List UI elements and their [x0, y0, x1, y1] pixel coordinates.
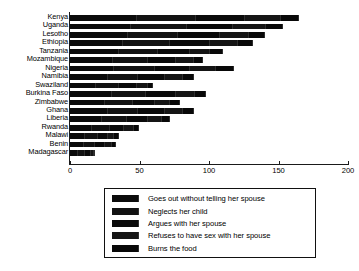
chart-figure: 050100150200 KenyaUgandaLesothoEthiopiaT… [0, 0, 359, 271]
bar-segment [146, 91, 175, 97]
bar-segment [165, 108, 183, 114]
bar-segment [155, 66, 190, 72]
bar-segment [210, 40, 238, 46]
bar-segment [128, 32, 178, 38]
bar-segment [124, 125, 134, 131]
bar-segment [70, 15, 137, 21]
bar-segment [183, 108, 194, 114]
bar-segment [70, 32, 128, 38]
bar-segment [108, 74, 139, 80]
stacked-bar [70, 116, 170, 122]
bar-segment [138, 108, 164, 114]
bar-segment [155, 100, 170, 106]
bar-segment [165, 74, 183, 80]
legend-swatch-4 [112, 232, 139, 239]
bar-segment [70, 74, 108, 80]
bar-segment [194, 57, 204, 63]
bar-segment [70, 49, 119, 55]
bar-segment [108, 133, 115, 139]
bar-segment [123, 40, 170, 46]
bar-segment [102, 116, 127, 122]
bar-segment [162, 116, 170, 122]
bar-segment [94, 150, 95, 156]
stacked-bar [70, 108, 194, 114]
stacked-bar [70, 49, 223, 55]
bar-segment [70, 83, 96, 89]
bar-segment [112, 142, 116, 148]
x-axis-tick-label: 200 [342, 166, 355, 175]
legend-label: Neglects her child [148, 207, 207, 216]
bar-segment [70, 66, 114, 72]
stacked-bar [70, 40, 253, 46]
bar-segment [119, 83, 137, 89]
bar-segment [105, 142, 112, 148]
bar-segment [113, 57, 148, 63]
legend-item: Neglects her child [105, 205, 315, 217]
legend-label: Argues with her spouse [148, 219, 226, 228]
bar-segment [112, 91, 147, 97]
bar-segment [105, 100, 133, 106]
bar-segment [95, 142, 105, 148]
bar-segment [131, 24, 187, 30]
bar-segment [133, 100, 155, 106]
legend-item: Refuses to have sex with her spouse [105, 230, 315, 242]
legend-item: Goes out without telling her spouse [105, 193, 315, 205]
x-axis-tick-label: 50 [135, 166, 143, 175]
bar-segment [148, 116, 162, 122]
bar-segment [170, 40, 210, 46]
bar-segment [178, 32, 220, 38]
x-axis-tick [140, 161, 141, 165]
bar-segment [84, 142, 95, 148]
bar-segment [148, 83, 154, 89]
stacked-bar [70, 100, 180, 106]
stacked-bar [70, 91, 206, 97]
bar-segment [210, 49, 223, 55]
stacked-bar [70, 74, 194, 80]
legend-item: Burns the food [105, 242, 315, 254]
bar-segment [119, 49, 158, 55]
x-axis-tick [70, 161, 71, 165]
bar-segment [70, 108, 108, 114]
bar-segment [220, 32, 249, 38]
bar-segment [96, 83, 118, 89]
bar-segment [134, 125, 140, 131]
bar-segment [183, 74, 194, 80]
x-axis-tick-label: 100 [203, 166, 216, 175]
stacked-bar [70, 32, 265, 38]
x-axis-tick [209, 161, 210, 165]
legend-label: Goes out without telling her spouse [148, 194, 265, 203]
bar-segment [70, 125, 92, 131]
bar-segment [85, 133, 98, 139]
bar-segment [190, 66, 216, 72]
bar-segment [281, 15, 299, 21]
legend-swatch-3 [112, 220, 139, 227]
category-label: Madagascar [0, 148, 68, 156]
bar-segment [190, 49, 211, 55]
stacked-bar [70, 125, 140, 131]
stacked-bar [70, 15, 299, 21]
bar-segment [249, 32, 264, 38]
stacked-bar [70, 133, 119, 139]
bar-segment [158, 49, 190, 55]
legend-label: Refuses to have sex with her spouse [148, 231, 270, 240]
bar-segment [195, 91, 206, 97]
stacked-bar [70, 24, 283, 30]
stacked-bar [70, 83, 153, 89]
bar-segment [70, 142, 84, 148]
bar-segment [176, 91, 195, 97]
x-axis-tick-label: 0 [68, 166, 72, 175]
bar-segment [137, 15, 197, 21]
bar-segment [70, 133, 85, 139]
bar-segment [114, 133, 118, 139]
bar-segment [138, 74, 164, 80]
bar-segment [98, 133, 108, 139]
bar-segment [266, 24, 283, 30]
bar-segment [114, 66, 154, 72]
bar-segment [148, 57, 176, 63]
bar-segment [245, 15, 281, 21]
legend-swatch-1 [112, 195, 139, 202]
chart-row: Madagascar [0, 149, 359, 157]
bar-segment [70, 40, 123, 46]
legend-label: Burns the food [148, 244, 197, 253]
bar-segment [137, 83, 148, 89]
